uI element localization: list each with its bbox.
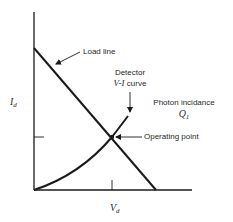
operating-point-marker xyxy=(110,135,114,139)
photon-incidence-label: Photon incidance Q1 xyxy=(143,99,225,121)
y-axis-subscript: d xyxy=(13,101,17,109)
y-axis-label: Id xyxy=(10,97,17,109)
photon-incidence-text: Photon incidance xyxy=(143,99,225,107)
detector-vi-curve xyxy=(34,116,128,190)
vi-symbol: V-I xyxy=(114,78,125,88)
detector-label: Detector V-I curve xyxy=(108,69,152,88)
x-axis-subscript: d xyxy=(116,207,120,215)
detector-label-line2: V-I curve xyxy=(108,79,152,88)
q-letter: Q xyxy=(179,108,186,119)
load-line-arrow xyxy=(56,52,80,64)
load-line-label: Load line xyxy=(83,48,115,56)
x-axis-label: Vd xyxy=(110,203,120,215)
q-subscript: 1 xyxy=(186,113,190,121)
q1-symbol: Q1 xyxy=(143,109,225,121)
detector-label-line1: Detector xyxy=(108,69,152,77)
operating-point-label: Operating point xyxy=(144,133,199,141)
curve-text: curve xyxy=(125,79,147,88)
load-line-diagram: Id Vd Load line Detector V-I curve Photo… xyxy=(0,0,233,222)
